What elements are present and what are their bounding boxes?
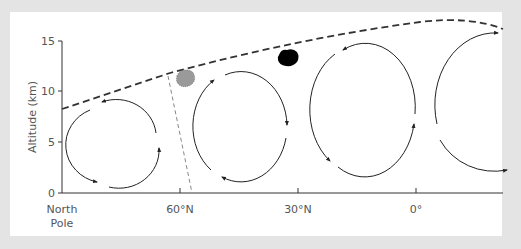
x-axis: North Pole 60°N 30°N 0°	[47, 188, 503, 230]
polar-cell	[66, 99, 159, 188]
y-axis: 15 10 5 0 Altitude (km)	[26, 35, 62, 200]
x-tick-30n: 30°N	[284, 203, 312, 216]
x-tick-0: 0°	[410, 203, 423, 216]
x-tick-north-pole-line2: Pole	[51, 217, 74, 230]
subtropical-jet-black-blob-icon	[278, 49, 299, 66]
atmospheric-circulation-diagram: 15 10 5 0 Altitude (km) North Pole 60°N …	[0, 0, 521, 249]
y-tick-10: 10	[41, 85, 55, 98]
y-axis-title: Altitude (km)	[26, 81, 39, 153]
y-tick-15: 15	[41, 35, 55, 48]
y-tick-5: 5	[48, 136, 55, 149]
y-tick-0: 0	[48, 187, 55, 200]
ferrel-cell	[193, 72, 287, 182]
x-tick-north-pole-line1: North	[47, 203, 78, 216]
x-tick-60n: 60°N	[166, 203, 194, 216]
hadley-cell	[310, 43, 415, 177]
polar-jet-gray-blob-icon	[177, 70, 195, 87]
polar-front-line	[168, 76, 192, 193]
equatorial-cell	[435, 33, 507, 171]
